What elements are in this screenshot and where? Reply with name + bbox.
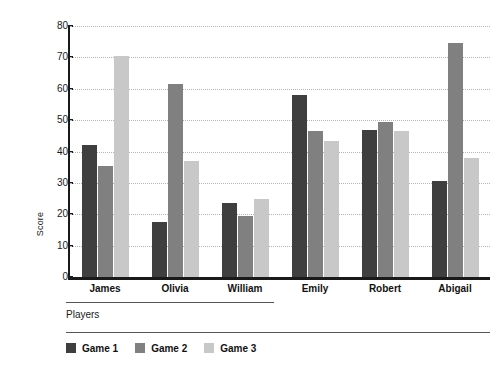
y-axis-tick-label: 30 xyxy=(44,178,68,188)
legend-item[interactable]: Game 2 xyxy=(135,343,187,354)
x-axis-line xyxy=(68,277,490,280)
bar[interactable] xyxy=(222,203,237,277)
x-axis-category-label: William xyxy=(210,283,280,294)
gridline xyxy=(70,120,490,121)
legend-swatch xyxy=(66,343,76,353)
bar-group xyxy=(82,26,129,277)
bar[interactable] xyxy=(82,145,97,277)
gridline xyxy=(70,214,490,215)
legend-divider xyxy=(66,332,490,333)
legend-item[interactable]: Game 1 xyxy=(66,343,118,354)
legend-item[interactable]: Game 3 xyxy=(204,343,256,354)
bar-group xyxy=(292,26,339,277)
bar[interactable] xyxy=(432,181,447,277)
bar-group xyxy=(432,26,479,277)
bar[interactable] xyxy=(448,43,463,277)
gridline xyxy=(70,246,490,247)
x-axis-category-label: Olivia xyxy=(140,283,210,294)
plot-area xyxy=(70,26,490,277)
chart-legend: Game 1Game 2Game 3 xyxy=(66,341,273,355)
y-axis-tick-label: 20 xyxy=(44,209,68,219)
x-axis-title: Players xyxy=(66,309,99,320)
bar[interactable] xyxy=(394,131,409,277)
bar-group xyxy=(362,26,409,277)
bar[interactable] xyxy=(292,95,307,277)
bar[interactable] xyxy=(254,199,269,277)
x-axis-category-label: Robert xyxy=(350,283,420,294)
bar-group xyxy=(222,26,269,277)
y-axis-tick-label: 60 xyxy=(44,84,68,94)
bar[interactable] xyxy=(114,56,129,277)
bar[interactable] xyxy=(168,84,183,277)
bar[interactable] xyxy=(152,222,167,277)
x-axis-category-label: James xyxy=(70,283,140,294)
gridline xyxy=(70,57,490,58)
bar[interactable] xyxy=(98,166,113,277)
bar[interactable] xyxy=(362,130,377,277)
legend-label: Game 2 xyxy=(151,343,187,354)
legend-swatch xyxy=(204,343,214,353)
y-axis-tick-label: 40 xyxy=(44,147,68,157)
x-axis-rule xyxy=(66,302,274,303)
x-axis-category-label: Emily xyxy=(280,283,350,294)
gridline xyxy=(70,26,490,27)
bar[interactable] xyxy=(308,131,323,277)
bar[interactable] xyxy=(184,161,199,277)
y-axis-tick-label: 0 xyxy=(44,272,68,282)
bar[interactable] xyxy=(238,216,253,277)
bar-chart: Score 01020304050607080 JamesOliviaWilli… xyxy=(0,0,504,376)
bar[interactable] xyxy=(324,141,339,277)
y-axis-tick-label: 70 xyxy=(44,52,68,62)
gridline xyxy=(70,152,490,153)
legend-label: Game 1 xyxy=(82,343,118,354)
gridline xyxy=(70,183,490,184)
bar[interactable] xyxy=(464,158,479,277)
y-axis-tick-label: 80 xyxy=(44,21,68,31)
x-axis-category-label: Abigail xyxy=(420,283,490,294)
gridline xyxy=(70,89,490,90)
y-axis-tick-label: 50 xyxy=(44,115,68,125)
legend-swatch xyxy=(135,343,145,353)
bar-group xyxy=(152,26,199,277)
y-axis-tick-label: 10 xyxy=(44,241,68,251)
bar[interactable] xyxy=(378,122,393,277)
legend-label: Game 3 xyxy=(220,343,256,354)
